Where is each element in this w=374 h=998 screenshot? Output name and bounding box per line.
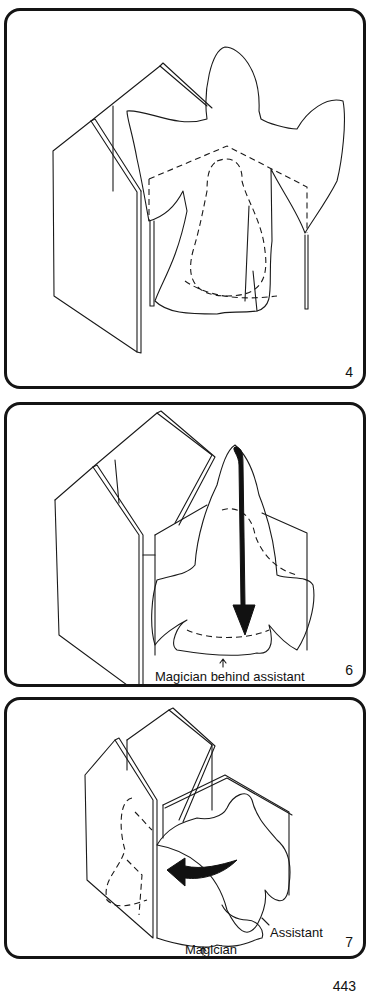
panel-number: 6 bbox=[345, 662, 353, 678]
illustration-panel-4: 4 bbox=[4, 8, 366, 389]
screen-and-ghost-drawing-4 bbox=[7, 11, 366, 389]
label-assistant: Assistant bbox=[270, 925, 323, 940]
panel-number: 7 bbox=[345, 934, 353, 950]
caption-magician-behind-assistant: Magician behind assistant bbox=[155, 669, 305, 684]
illustration-panel-6: Magician behind assistant 6 bbox=[4, 402, 366, 687]
screen-and-ghost-drawing-7 bbox=[7, 700, 366, 959]
label-magician: Magician bbox=[185, 942, 237, 957]
panel-number: 4 bbox=[345, 364, 353, 380]
screen-and-ghost-drawing-6 bbox=[7, 405, 366, 687]
illustration-panel-7: Assistant Magician 7 bbox=[4, 697, 366, 959]
page-number: 443 bbox=[333, 978, 356, 994]
